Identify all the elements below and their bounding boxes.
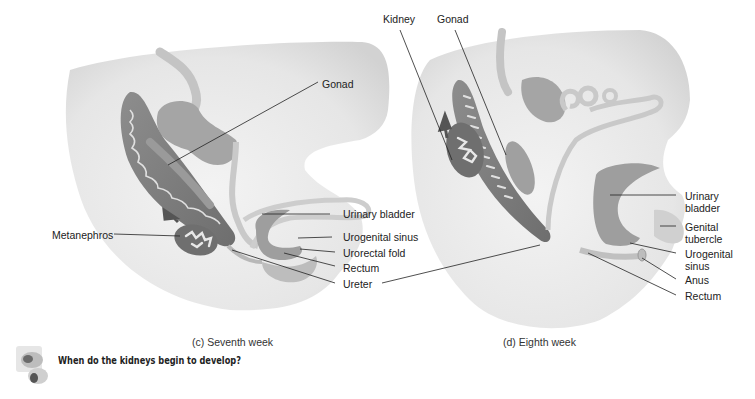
caption-seventh-week: (c) Seventh week [192,336,273,348]
label-anus-d: Anus [685,274,709,286]
label-urinary-bladder-d: Urinarybladder [685,190,720,214]
label-text: tubercle [685,233,722,245]
label-urogenital-sinus-c: Urogenital sinus [343,231,418,243]
label-rectum-c: Rectum [343,262,379,274]
label-gonad-d: Gonad [437,13,469,25]
label-text: Genital [685,221,718,233]
label-text: bladder [685,202,720,214]
label-urinary-bladder-c: Urinary bladder [343,208,415,220]
label-text: sinus [685,260,710,272]
embryo-body-d [411,30,690,328]
label-text: Urinary [685,190,719,202]
label-genital-tubercle-d: Genitaltubercle [685,221,722,245]
label-text: Urogenital [685,248,733,260]
label-metanephros-c: Metanephros [52,229,113,241]
label-urogenital-sinus-d: Urogenitalsinus [685,248,733,272]
eighth-week-embryo [411,30,690,328]
question-blocks-icon [14,344,54,388]
label-kidney-d: Kidney [383,13,415,25]
diagram-artwork [0,0,755,399]
caption-eighth-week: (d) Eighth week [503,336,576,348]
label-ureter-c: Ureter [343,278,372,290]
label-gonad-c: Gonad [322,78,354,90]
review-question: When do the kidneys begin to develop? [58,355,241,366]
label-urorectal-fold-c: Urorectal fold [343,247,405,259]
label-rectum-d: Rectum [685,290,721,302]
